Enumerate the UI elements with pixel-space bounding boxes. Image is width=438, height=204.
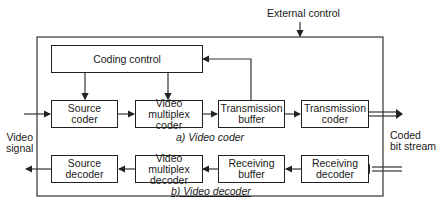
- video-multiplex-coder-block: Video multiplex coder: [135, 100, 203, 128]
- video-decoder-caption: b) Video decoder: [171, 185, 251, 197]
- source-coder-block: Source coder: [51, 100, 118, 128]
- coding-control-block: Coding control: [51, 45, 203, 73]
- video-multiplex-decoder-block: Video multiplex decoder: [135, 155, 203, 183]
- coded-bit-stream-label: Coded bit stream: [390, 130, 436, 152]
- video-signal-label: Video signal: [6, 132, 33, 154]
- video-coder-caption: a) Video coder: [176, 131, 244, 143]
- receiving-decoder-block: Receiving decoder: [301, 155, 369, 183]
- receiving-buffer-block: Receiving buffer: [218, 155, 285, 183]
- transmission-coder-block: Transmission coder: [301, 100, 369, 128]
- source-decoder-block: Source decoder: [51, 155, 118, 183]
- transmission-buffer-block: Transmission buffer: [218, 100, 285, 128]
- external-control-label: External control: [267, 8, 340, 19]
